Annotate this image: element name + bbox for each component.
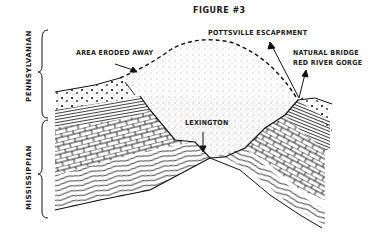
label-area-eroded-away: AREA ERODED AWAY xyxy=(76,49,153,57)
brace-mississippian xyxy=(38,120,48,218)
label-pottsville-escarpment: POTTSVILLE ESCAPRMENT xyxy=(208,29,307,37)
arrow-area-eroded xyxy=(115,64,137,72)
label-pennsylvanian: PENNSYLVANIAN xyxy=(25,30,33,102)
figure-title: FIGURE #3 xyxy=(193,6,246,15)
brace-pennsylvanian xyxy=(38,30,48,118)
label-lexington: LEXINGTON xyxy=(185,119,228,127)
label-red-river-gorge: RED RIVER GORGE xyxy=(293,59,362,67)
label-mississippian: MISSISSIPPIAN xyxy=(25,145,33,210)
label-natural-bridge: NATURAL BRIDGE xyxy=(293,49,359,57)
arrow-natural-bridge xyxy=(299,70,308,98)
